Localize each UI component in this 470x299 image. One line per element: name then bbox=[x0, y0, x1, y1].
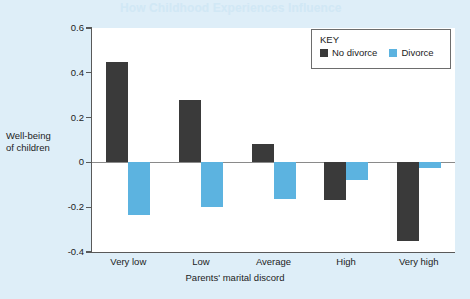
bar-average-divorce bbox=[274, 162, 296, 199]
x-axis-tick-label-low: Low bbox=[161, 256, 241, 267]
bar-low-no-divorce bbox=[179, 100, 201, 163]
bar-very-high-no-divorce bbox=[397, 162, 419, 240]
legend-swatch-icon bbox=[389, 49, 397, 57]
y-axis-tick-label-text: 0.2 bbox=[54, 113, 84, 122]
y-axis-tick-label-text: 0.6 bbox=[54, 23, 84, 32]
bar-average-no-divorce bbox=[252, 144, 274, 162]
y-axis-tick-label: 0.6 bbox=[48, 23, 84, 33]
y-axis-tick-label: -0.2 bbox=[48, 202, 84, 212]
bar-low-divorce bbox=[201, 162, 223, 207]
chart-figure: How Childhood Experiences Influence 0.60… bbox=[0, 0, 470, 299]
legend-item-divorce: Divorce bbox=[389, 48, 433, 58]
x-axis-line bbox=[91, 252, 455, 253]
y-axis-tick bbox=[86, 251, 92, 252]
y-axis-tick bbox=[86, 162, 92, 163]
y-axis-tick-label: 0.4 bbox=[48, 68, 84, 78]
x-axis-tick-label-average: Average bbox=[234, 256, 314, 267]
bar-high-no-divorce bbox=[324, 162, 346, 200]
x-axis-tick-label-very-high: Very high bbox=[379, 256, 459, 267]
legend-box: KEY No divorceDivorce bbox=[311, 29, 451, 69]
legend-items: No divorceDivorce bbox=[320, 48, 450, 58]
x-axis-tick-label-very-low: Very low bbox=[88, 256, 168, 267]
legend-item-label: No divorce bbox=[332, 48, 377, 58]
bar-very-low-no-divorce bbox=[106, 62, 128, 163]
legend-item-no-divorce: No divorce bbox=[320, 48, 377, 58]
y-axis-tick bbox=[86, 117, 92, 118]
y-axis-label: Well-being of children bbox=[6, 130, 90, 154]
y-axis-tick bbox=[86, 27, 92, 28]
y-axis-tick-label-text: 0 bbox=[54, 157, 84, 166]
faded-page-header: How Childhood Experiences Influence bbox=[120, 1, 380, 15]
y-axis-tick-label-text: -0.2 bbox=[54, 202, 84, 211]
y-axis-label-line1: Well-being bbox=[6, 130, 90, 142]
legend-swatch-icon bbox=[320, 49, 328, 57]
y-axis-tick-label: -0.4 bbox=[48, 247, 84, 257]
bar-high-divorce bbox=[346, 162, 368, 180]
y-axis-label-line2: of children bbox=[6, 142, 90, 154]
y-axis-tick-label: 0.2 bbox=[48, 113, 84, 123]
bar-very-low-divorce bbox=[128, 162, 150, 215]
y-axis-line bbox=[91, 28, 92, 253]
x-axis-tick-label-high: High bbox=[306, 256, 386, 267]
y-axis-tick bbox=[86, 72, 92, 73]
legend-item-label: Divorce bbox=[401, 48, 433, 58]
y-axis-tick-label-text: -0.4 bbox=[54, 247, 84, 256]
y-axis-tick bbox=[86, 207, 92, 208]
legend-title: KEY bbox=[320, 34, 450, 45]
y-axis-tick-label: 0 bbox=[48, 157, 84, 167]
x-axis-label: Parents' marital discord bbox=[0, 272, 470, 283]
y-axis-tick-label-text: 0.4 bbox=[54, 68, 84, 77]
bar-very-high-divorce bbox=[419, 162, 441, 168]
